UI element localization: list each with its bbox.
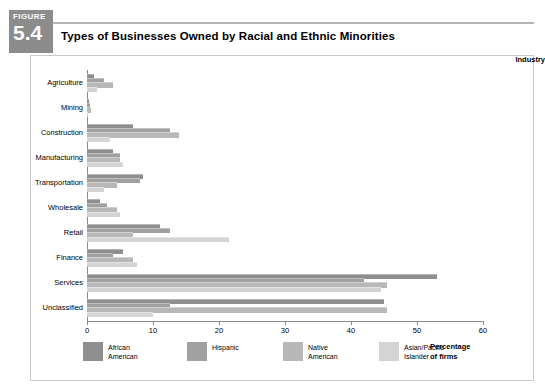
figure-number: 5.4 (13, 22, 53, 44)
bar (87, 137, 110, 142)
x-axis-tick (285, 321, 286, 325)
bar (87, 287, 381, 292)
chart-legend: AfricanAmericanHispanicNativeAmericanAsi… (83, 340, 423, 372)
bar-group (87, 299, 483, 316)
bar-group (87, 99, 483, 116)
bar (87, 162, 123, 167)
legend-swatch (283, 342, 303, 361)
x-axis-tick-label: 0 (72, 326, 102, 335)
y-axis-tick-label: Construction (0, 128, 83, 137)
title-divider (53, 22, 534, 24)
y-axis-tick-label: Retail (0, 228, 83, 237)
legend-label-line1: Asian/Pacific (404, 343, 466, 352)
x-axis-tick-label: 30 (270, 326, 300, 335)
y-axis-tick-label: Mining (0, 103, 83, 112)
legend-label: NativeAmerican (308, 343, 370, 361)
x-axis-tick-label: 60 (468, 326, 498, 335)
x-axis-tick (87, 321, 88, 325)
x-axis-tick (153, 321, 154, 325)
bar (87, 187, 104, 192)
x-axis-tick (417, 321, 418, 325)
x-axis-tick-label: 50 (402, 326, 432, 335)
legend-label-line1: Native (308, 343, 370, 352)
legend-swatch (379, 342, 399, 361)
x-axis-tick (483, 321, 484, 325)
figure-badge: FIGURE 5.4 (9, 10, 53, 53)
bar-group (87, 249, 483, 266)
bar-group (87, 174, 483, 191)
bar (87, 262, 137, 267)
y-axis-header: Industry (462, 55, 545, 64)
bar (87, 87, 97, 92)
y-axis-tick-label: Services (0, 278, 83, 287)
bar (87, 212, 120, 217)
x-axis-tick (219, 321, 220, 325)
y-axis-labels: AgricultureMiningConstructionManufacturi… (0, 70, 83, 320)
y-axis-tick-label: Manufacturing (0, 153, 83, 162)
legend-label: Hispanic (212, 343, 274, 352)
legend-label-line2: Islander (404, 352, 466, 361)
figure-word: FIGURE (13, 12, 53, 21)
bar-group (87, 224, 483, 241)
x-axis-tick-label: 40 (336, 326, 366, 335)
bar-group (87, 124, 483, 141)
legend-swatch (187, 342, 207, 361)
y-axis-tick-label: Unclassified (0, 303, 83, 312)
y-axis-tick-label: Finance (0, 253, 83, 262)
legend-label: AfricanAmerican (108, 343, 170, 361)
x-axis-tick-label: 10 (138, 326, 168, 335)
bar-group (87, 274, 483, 291)
legend-label-line1: African (108, 343, 170, 352)
plot-area (87, 70, 483, 320)
bar-group (87, 74, 483, 91)
legend-label-line1: Hispanic (212, 343, 274, 352)
bar-group (87, 149, 483, 166)
y-axis-tick-label: Transportation (0, 178, 83, 187)
bar (87, 112, 88, 117)
x-axis-tick-label: 20 (204, 326, 234, 335)
x-axis-tick (351, 321, 352, 325)
bar-group (87, 199, 483, 216)
legend-label: Asian/PacificIslander (404, 343, 466, 361)
figure-container: FIGURE 5.4 Types of Businesses Owned by … (0, 0, 545, 392)
chart-title: Types of Businesses Owned by Racial and … (61, 29, 526, 43)
legend-swatch (83, 342, 103, 361)
legend-label-line2: American (308, 352, 370, 361)
bar (87, 312, 153, 317)
y-axis-tick-label: Agriculture (0, 78, 83, 87)
bar (87, 237, 229, 242)
legend-label-line2: American (108, 352, 170, 361)
y-axis-tick-label: Wholesale (0, 203, 83, 212)
